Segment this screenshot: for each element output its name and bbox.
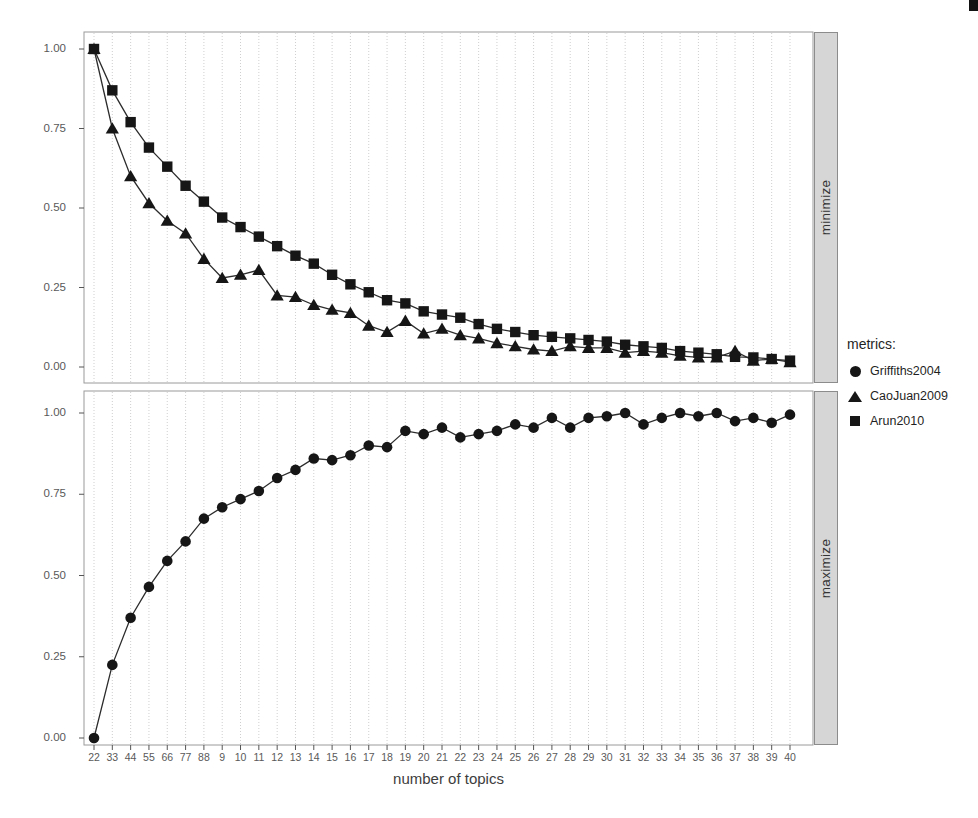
facet-strip-minimize: minimize xyxy=(814,32,838,383)
svg-text:0.25: 0.25 xyxy=(44,650,66,662)
legend-item-griffiths2004: Griffiths2004 xyxy=(847,364,948,378)
svg-text:33: 33 xyxy=(656,751,668,763)
svg-text:30: 30 xyxy=(601,751,613,763)
svg-text:0.50: 0.50 xyxy=(44,201,66,213)
svg-text:24: 24 xyxy=(491,751,503,763)
svg-text:0.00: 0.00 xyxy=(44,360,66,372)
svg-text:26: 26 xyxy=(528,751,540,763)
svg-text:17: 17 xyxy=(363,751,375,763)
svg-text:66: 66 xyxy=(161,751,173,763)
svg-text:22: 22 xyxy=(454,751,466,763)
svg-text:22: 22 xyxy=(88,751,100,763)
svg-text:0.25: 0.25 xyxy=(44,281,66,293)
svg-text:11: 11 xyxy=(253,751,264,763)
svg-text:44: 44 xyxy=(125,751,137,763)
svg-text:39: 39 xyxy=(766,751,778,763)
svg-text:16: 16 xyxy=(345,751,357,763)
svg-text:15: 15 xyxy=(326,751,338,763)
facet-strip-maximize-label: maximize xyxy=(819,538,834,597)
circle-marker-icon xyxy=(847,366,863,377)
legend-item-caojuan2009: CaoJuan2009 xyxy=(847,389,948,403)
ldatuning-topic-number-plot: 0.000.250.500.751.000.000.250.500.751.00… xyxy=(0,0,978,818)
facet-strip-maximize: maximize xyxy=(814,391,838,745)
square-marker-icon xyxy=(847,416,863,426)
svg-text:9: 9 xyxy=(219,751,225,763)
legend-item-griffiths2004-label: Griffiths2004 xyxy=(870,364,941,378)
svg-text:37: 37 xyxy=(729,751,741,763)
svg-text:55: 55 xyxy=(143,751,155,763)
svg-text:19: 19 xyxy=(400,751,412,763)
svg-text:34: 34 xyxy=(674,751,686,763)
facet-strip-minimize-label: minimize xyxy=(819,180,834,236)
svg-text:14: 14 xyxy=(308,751,320,763)
svg-text:18: 18 xyxy=(381,751,393,763)
svg-text:77: 77 xyxy=(180,751,192,763)
svg-text:0.00: 0.00 xyxy=(44,731,66,743)
svg-text:13: 13 xyxy=(290,751,302,763)
svg-text:0.75: 0.75 xyxy=(44,122,66,134)
svg-text:1.00: 1.00 xyxy=(44,406,66,418)
svg-text:21: 21 xyxy=(436,751,448,763)
legend: metrics: Griffiths2004 CaoJuan2009 Arun2… xyxy=(847,336,948,439)
svg-text:25: 25 xyxy=(509,751,521,763)
svg-text:31: 31 xyxy=(619,751,631,763)
svg-text:0.50: 0.50 xyxy=(44,569,66,581)
svg-text:36: 36 xyxy=(711,751,723,763)
svg-text:38: 38 xyxy=(748,751,760,763)
svg-text:40: 40 xyxy=(784,751,796,763)
svg-text:27: 27 xyxy=(546,751,558,763)
legend-item-arun2010-label: Arun2010 xyxy=(870,414,924,428)
svg-text:33: 33 xyxy=(106,751,118,763)
svg-text:0.75: 0.75 xyxy=(44,487,66,499)
legend-title: metrics: xyxy=(847,336,948,352)
svg-text:12: 12 xyxy=(271,751,283,763)
triangle-marker-icon xyxy=(847,391,863,402)
svg-text:10: 10 xyxy=(235,751,247,763)
svg-text:1.00: 1.00 xyxy=(44,42,66,54)
svg-text:29: 29 xyxy=(583,751,595,763)
svg-text:88: 88 xyxy=(198,751,210,763)
svg-text:35: 35 xyxy=(693,751,705,763)
legend-item-arun2010: Arun2010 xyxy=(847,414,948,428)
svg-text:32: 32 xyxy=(638,751,650,763)
scan-artifact-mark xyxy=(969,0,978,11)
svg-text:28: 28 xyxy=(564,751,576,763)
svg-text:20: 20 xyxy=(418,751,430,763)
x-axis-title: number of topics xyxy=(84,770,813,787)
svg-text:23: 23 xyxy=(473,751,485,763)
legend-item-caojuan2009-label: CaoJuan2009 xyxy=(870,389,948,403)
